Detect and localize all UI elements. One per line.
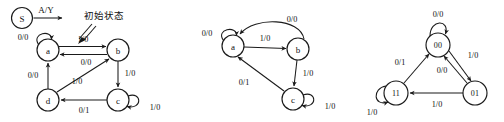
edge-c-c-label: 1/0 [150, 103, 160, 112]
node-c-label: c [116, 96, 120, 106]
edge-d-b-label: 1/0 [72, 77, 82, 86]
node-a-label: a [46, 46, 50, 56]
node-c-label: c [291, 95, 295, 105]
panel-3-state-diagram: 00 11 01 0/0 1/0 0/0 1/0 0/1 1/0 [360, 0, 504, 122]
start-transition-label: A/Y [38, 5, 54, 15]
edge-b-a-label: 0/0 [287, 15, 297, 24]
edge-01-11-label: 1/0 [432, 100, 442, 109]
edge-a-a-label: 0/0 [18, 33, 28, 42]
edge-01-00-label: 0/0 [437, 66, 447, 75]
edge-a-a-label: 0/0 [202, 29, 212, 38]
node-01-label: 01 [471, 89, 479, 98]
edge-11-00-label: 0/1 [395, 58, 405, 67]
start-node-s-label: S [19, 14, 24, 24]
edge-b-a-label: 0/0 [81, 58, 91, 67]
panel-1-state-diagram: S A/Y 初始状态 a b c d 0/0 1/0 0/0 1/0 [0, 0, 180, 122]
node-a-label: a [231, 42, 235, 52]
node-11-label: 11 [392, 89, 400, 98]
edge-b-c-label: 1/0 [125, 69, 135, 78]
initial-state-annotation: 初始状态 [84, 10, 124, 21]
edge-a-b [244, 47, 286, 49]
edge-00-00-label: 0/0 [433, 10, 443, 19]
node-d-label: d [46, 96, 51, 106]
node-b-label: b [116, 46, 121, 56]
panel-2-state-diagram: a b c 0/0 1/0 0/0 1/0 1/0 0/1 [180, 0, 350, 122]
edge-b-c [294, 60, 297, 86]
edge-c-c-label: 1/0 [325, 102, 335, 111]
edge-a-b-label: 1/0 [78, 35, 88, 44]
edge-b-a [240, 22, 304, 39]
edge-d-a-label: 0/0 [28, 71, 38, 80]
node-b-label: b [296, 45, 301, 55]
edge-11-11-label: 1/0 [367, 108, 377, 117]
edge-11-00 [404, 54, 429, 83]
edge-c-a-label: 0/1 [239, 78, 249, 87]
edge-b-c-label: 1/0 [303, 69, 313, 78]
edge-c-d-label: 0/1 [79, 106, 89, 115]
node-00-label: 00 [434, 41, 442, 50]
edge-00-01-label: 1/0 [468, 51, 478, 60]
figure-canvas: S A/Y 初始状态 a b c d 0/0 1/0 0/0 1/0 [0, 0, 504, 122]
edge-a-b-label: 1/0 [260, 34, 270, 43]
